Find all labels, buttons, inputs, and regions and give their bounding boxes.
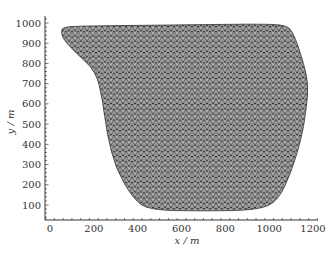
y-tick-label: 200 xyxy=(22,179,41,190)
y-tick-label: 100 xyxy=(22,200,41,211)
x-tick-label: 800 xyxy=(216,223,235,234)
x-tick-label: 200 xyxy=(84,223,103,234)
x-tick-label: 400 xyxy=(128,223,147,234)
y-axis: 1002003004005006007008009001000 xyxy=(16,16,49,220)
x-tick-label: 1000 xyxy=(256,223,281,234)
y-tick-label: 300 xyxy=(22,159,41,170)
mesh-domain xyxy=(62,24,308,211)
y-tick-label: 1000 xyxy=(16,18,41,29)
y-tick-label: 800 xyxy=(22,58,41,69)
y-tick-label: 600 xyxy=(22,98,41,109)
y-tick-label: 700 xyxy=(22,78,41,89)
x-axis: 020040060080010001200 xyxy=(45,218,326,234)
y-tick-label: 900 xyxy=(22,38,41,49)
mesh-chart: 1002003004005006007008009001000 02004006… xyxy=(0,0,329,256)
x-axis-label: x / m xyxy=(175,235,200,246)
x-tick-label: 1200 xyxy=(300,223,325,234)
x-tick-label: 0 xyxy=(47,223,53,234)
y-tick-label: 500 xyxy=(22,119,41,130)
y-tick-label: 400 xyxy=(22,139,41,150)
x-tick-label: 600 xyxy=(172,223,191,234)
y-axis-label: y / m xyxy=(5,110,16,136)
